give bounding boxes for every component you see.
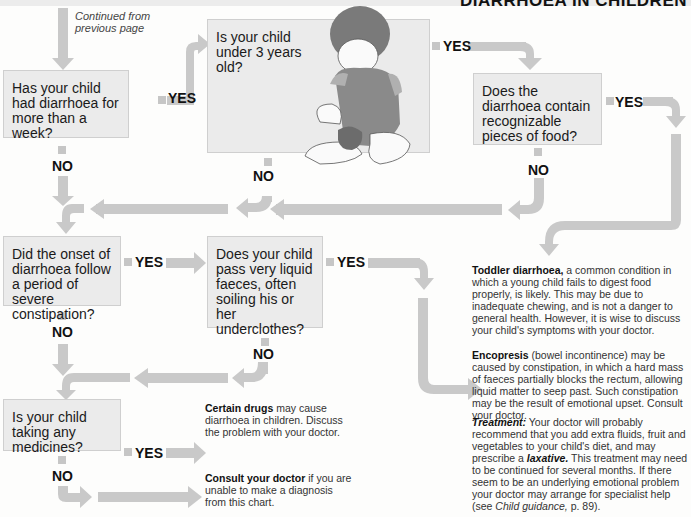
question-box-q6: Is your child taking any medicines? [3,399,121,451]
outcome-title: Encopresis [472,349,529,361]
no-label-q5: NO [253,346,274,362]
no-label-q4: NO [52,324,73,340]
treatment-title: Treatment: [472,416,526,428]
question-box-q3: Does the diarrhoea contain recognizable … [473,73,602,145]
laxative-term: laxative. [527,452,568,464]
question-text: Does the diarrhoea contain recognizable … [482,83,590,144]
outcome-title: Consult your doctor [205,472,305,484]
yes-label-q1: YES [168,90,196,106]
question-box-q1: Has your child had diarrhoea for more th… [3,70,129,138]
outcome-title: Toddler diarrhoea, [472,264,563,276]
no-label-q2: NO [253,168,274,184]
outcome-certain-drugs: Certain drugs may cause diarrhoea in chi… [205,402,355,438]
outcome-encopresis: Encopresis (bowel incontinence) may be c… [472,349,688,421]
question-text: Is your child taking any medicines? [12,409,87,455]
question-box-q5: Does your child pass very liquid faeces,… [207,236,323,328]
outcome-consult-doctor: Consult your doctor if you are unable to… [205,472,355,508]
yes-label-q2: YES [443,38,471,54]
no-label-q3: NO [528,162,549,178]
outcome-title: Certain drugs [205,402,273,414]
question-text: Is your child under 3 years old? [216,29,302,75]
no-label-q6: NO [52,468,73,484]
question-text: Has your child had diarrhoea for more th… [12,80,119,141]
treatment-body: p. 89). [568,500,601,512]
continued-note: Continued from previous page [75,10,165,34]
yes-label-q5: YES [337,254,365,270]
question-box-q4: Did the onset of diarrhoea follow a peri… [3,236,121,306]
yes-label-q4: YES [135,254,163,270]
question-text: Does your child pass very liquid faeces,… [216,246,313,337]
child-illustration [300,4,460,174]
outcome-treatment: Treatment: Your doctor will probably rec… [472,416,688,512]
yes-label-q6: YES [135,445,163,461]
outcome-toddler-diarrhoea: Toddler diarrhoea, a common condition in… [472,264,688,336]
no-label-q1: NO [52,158,73,174]
child-guidance-reference[interactable]: Child guidance, [495,500,567,512]
yes-label-q3: YES [615,94,643,110]
